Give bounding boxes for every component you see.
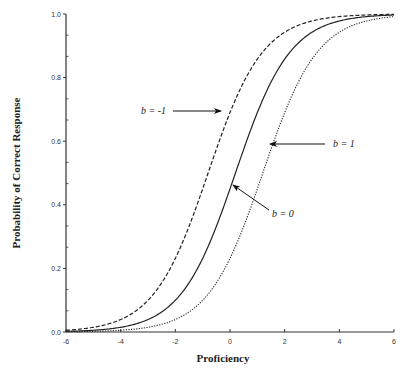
y-tick-label: 0.2 <box>51 265 61 272</box>
y-tick-label: 1.0 <box>51 11 61 18</box>
curve-b1 <box>66 17 394 332</box>
annotation-label: b = 1 <box>333 138 355 149</box>
x-tick-label: -4 <box>118 338 124 345</box>
x-tick-label: 4 <box>337 338 341 345</box>
y-tick-label: 0.6 <box>51 138 61 145</box>
x-tick-label: 2 <box>283 338 287 345</box>
x-tick-label: 6 <box>392 338 396 345</box>
annotation-arrow-icon <box>233 185 269 210</box>
x-tick-label: -2 <box>172 338 178 345</box>
axes: 0.00.20.40.60.81.0-6-4-20246 <box>51 11 396 346</box>
x-tick-label: -6 <box>63 338 69 345</box>
x-axis-title: Proficiency <box>197 352 250 364</box>
y-tick-label: 0.0 <box>51 329 61 336</box>
annotations: b = -1b = 1b = 0 <box>141 105 355 219</box>
curve-b0 <box>66 15 394 331</box>
y-tick-label: 0.4 <box>51 201 61 208</box>
y-axis-title: Probability of Correct Response <box>10 97 22 248</box>
annotation-label: b = 0 <box>272 208 294 219</box>
x-tick-label: 0 <box>228 338 232 345</box>
y-tick-label: 0.8 <box>51 74 61 81</box>
curves <box>66 14 394 331</box>
annotation-label: b = -1 <box>141 105 166 116</box>
curve-bneg1 <box>66 14 394 330</box>
icc-chart: 0.00.20.40.60.81.0-6-4-20246 b = -1b = 1… <box>0 0 407 378</box>
